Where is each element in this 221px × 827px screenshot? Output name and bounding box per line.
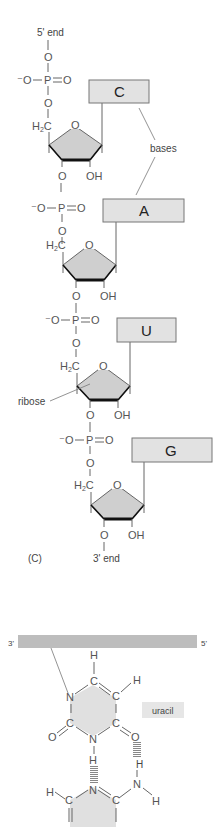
nitrogen-atom: N (133, 778, 141, 790)
three-prime-end-label: 3' end (93, 553, 120, 564)
phosphorus-atom: P (72, 314, 79, 326)
nucleotide-4: ⁻O P O O H2C O OH O G (59, 434, 212, 541)
base-letter: G (165, 442, 177, 459)
hydroxyl-group: OH (128, 529, 145, 541)
ribose-label: ribose (18, 396, 46, 407)
phosphate-neg-oxygen: ⁻O (31, 202, 46, 214)
oxygen-atom: O (58, 225, 67, 237)
base-letter: A (139, 202, 149, 219)
carbon-atom: C (66, 717, 74, 729)
five-prime-end-label: 5' end (37, 27, 64, 38)
nitrogen-atom: N (66, 691, 74, 703)
nucleotide-2: ⁻O P O O H2C O OH O A (31, 199, 184, 302)
nucleotide-3: ⁻O P O O H2C O OH O U (45, 314, 176, 421)
oxygen-atom: O (44, 97, 53, 109)
carbon-atom: C (65, 794, 73, 806)
carbon-atom: C (112, 717, 120, 729)
base-letter: U (141, 322, 152, 339)
hydrogen-atom: H (46, 786, 54, 798)
hydroxyl-group: OH (114, 409, 131, 421)
oxygen-atom: O (100, 529, 109, 541)
uracil-label: uracil (152, 706, 174, 716)
phosphorus-atom: P (58, 202, 65, 214)
bases-label: bases (150, 143, 177, 154)
ring-oxygen: O (71, 119, 80, 131)
ring-oxygen: O (99, 360, 108, 372)
ch2-group: H2C (46, 239, 66, 252)
ring-oxygen: O (85, 239, 94, 251)
nitrogen-atom: N (89, 733, 97, 745)
phosphate-double-oxygen: O (63, 74, 72, 86)
hydrogen-bond (90, 766, 98, 783)
oxygen-atom: O (44, 51, 53, 63)
ch2-group: H2C (32, 120, 52, 133)
strand-three-prime-label: 3' (8, 639, 14, 648)
oxygen-atom: O (72, 337, 81, 349)
carbon-atom: C (90, 675, 98, 687)
panel-label: (C) (28, 553, 42, 564)
rna-structure-diagram: 5' end O ⁻O P O O H2C O OH O C bases (0, 0, 221, 827)
hydroxyl-group: OH (86, 170, 103, 182)
hydrogen-atom: H (89, 754, 97, 766)
hydrogen-atom: H (90, 649, 98, 661)
hydrogen-atom: H (152, 795, 160, 807)
oxygen-atom: O (58, 170, 67, 182)
hydrogen-bond (133, 741, 141, 758)
hydroxyl-group: OH (100, 290, 117, 302)
phosphate-double-oxygen: O (105, 434, 114, 446)
oxygen-atom: O (86, 457, 95, 469)
base-letter: C (114, 83, 125, 100)
hydrogen-atom: H (136, 759, 143, 770)
ch2-group: H2C (74, 479, 94, 492)
carbon-atom: C (112, 690, 120, 702)
carbon-atom: C (112, 794, 120, 806)
phosphorus-atom: P (86, 434, 93, 446)
phosphate-double-oxygen: O (91, 314, 100, 326)
ch2-group: H2C (60, 360, 80, 373)
oxygen-atom: O (48, 731, 57, 743)
phosphate-neg-oxygen: ⁻O (59, 434, 74, 446)
nucleotide-1: O ⁻O P O O H2C O OH O C (17, 51, 149, 182)
oxygen-atom: O (86, 409, 95, 421)
ring-oxygen: O (113, 479, 122, 491)
oxygen-atom: O (72, 290, 81, 302)
strand-five-prime-label: 5' (201, 639, 207, 648)
phosphorus-atom: P (44, 74, 51, 86)
phosphate-neg-oxygen: ⁻O (45, 314, 60, 326)
uracil-pairing-panel: 3' 5' H C H C N C C O O N H (8, 635, 207, 827)
phosphate-double-oxygen: O (77, 202, 86, 214)
backbone-strand-bar (18, 635, 197, 648)
phosphate-neg-oxygen: ⁻O (17, 74, 32, 86)
hydrogen-atom: H (133, 674, 141, 686)
nitrogen-atom: N (89, 784, 97, 796)
